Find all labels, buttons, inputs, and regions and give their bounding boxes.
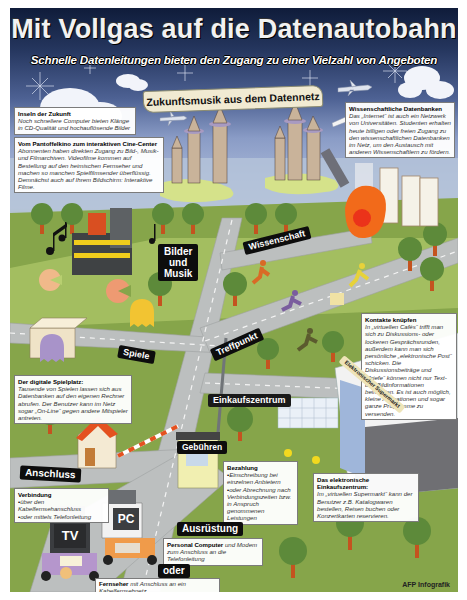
info-box-heading: Personal Computer bbox=[167, 541, 223, 548]
sign-line: und bbox=[164, 257, 192, 268]
info-box-spielplatz: Der digitale Spielplatz: Tausende von Sp… bbox=[14, 375, 132, 424]
info-box-text: In „virtuellen Cafés“ trifft man sich zu… bbox=[365, 323, 452, 416]
info-box-personal-computer: Personal Computer und Modem zum Anschlus… bbox=[163, 538, 263, 566]
sign-ausruestung: Ausrüstung bbox=[177, 522, 243, 536]
info-box-verbindung: Verbindung über den Kabelfernsehanschlus… bbox=[14, 488, 109, 523]
sign-oder: oder bbox=[158, 564, 190, 578]
pc-screen-label: PC bbox=[113, 508, 139, 530]
info-box-heading: Vom Pantoffelkino zum interaktiven Cine-… bbox=[18, 140, 160, 147]
info-box-heading: Das elektronische Einkaufszentrum: bbox=[317, 476, 415, 490]
info-box-kontakte: Kontakte knüpfen In „virtuellen Cafés“ t… bbox=[361, 313, 457, 420]
sign-bilder-und-musik: Bilder und Musik bbox=[158, 244, 198, 281]
info-box-heading: Verbindung bbox=[18, 491, 105, 498]
info-box-heading: Wissenschaftliche Datenbanken bbox=[349, 105, 451, 112]
info-box-fernseher: Fernseher mit Anschluss an ein Kabelfern… bbox=[95, 578, 220, 592]
sign-line: Musik bbox=[164, 268, 192, 279]
info-box-bezahlung: Bezahlung Einschreibung bei einzelnen An… bbox=[223, 461, 298, 525]
info-box-einkaufszentrum: Das elektronische Einkaufszentrum: Im „v… bbox=[313, 473, 419, 522]
info-box-heading: Fernseher bbox=[99, 580, 128, 587]
verbindung-list: über den Kabelfernsehanschluss oder mitt… bbox=[18, 498, 105, 520]
list-item: oder mittels Telefonleitung bbox=[18, 513, 105, 520]
info-box-text: Abonnenten haben direkten Zugang zu Bild… bbox=[18, 147, 159, 190]
info-box-heading: Der digitale Spielplatz: bbox=[18, 378, 128, 385]
island-right bbox=[265, 102, 338, 194]
info-box-heading: Bezahlung bbox=[227, 464, 294, 471]
info-box-text: Im „virtuellen Supermarkt“ kann der Benu… bbox=[317, 490, 413, 519]
info-box-text: Das „Internet“ ist auch ein Netzwerk von… bbox=[349, 112, 451, 155]
page-title: Mit Vollgas auf die Datenautobahn bbox=[10, 14, 458, 45]
info-box-cine-center: Vom Pantoffelkino zum interaktiven Cine-… bbox=[14, 137, 164, 193]
infographic-poster: Mit Vollgas auf die Datenautobahn Schnel… bbox=[10, 8, 458, 592]
tv-screen-label: TV bbox=[54, 524, 86, 548]
sign-gebuehren: Gebühren bbox=[177, 441, 227, 454]
page-subtitle: Schnelle Datenleitungen bieten den Zugan… bbox=[10, 53, 458, 66]
list-item: oder Abrechnung nach Verbindungszeiten b… bbox=[227, 486, 294, 522]
sign-einkaufszentrum: Einkaufszentrum bbox=[208, 394, 291, 407]
info-box-text: Tausende von Spielen lassen sich aus Dat… bbox=[18, 385, 128, 421]
info-box-heading: Inseln der Zukunft bbox=[18, 110, 132, 117]
list-item: Einschreibung bei einzelnen Anbietern bbox=[227, 471, 294, 485]
info-box-heading: Kontakte knüpfen bbox=[365, 316, 453, 323]
info-box-inseln: Inseln der Zukunft Noch schnellere Compu… bbox=[14, 107, 136, 135]
info-box-text: Noch schnellere Computer bieten Klänge i… bbox=[18, 117, 130, 131]
bezahlung-list: Einschreibung bei einzelnen Anbietern od… bbox=[227, 471, 294, 521]
sign-line: Bilder bbox=[164, 246, 192, 257]
list-item: über den Kabelfernsehanschluss bbox=[18, 498, 105, 512]
credit-label: AFP Infografik bbox=[402, 581, 450, 588]
info-box-wissenschaft: Wissenschaftliche Datenbanken Das „Inter… bbox=[345, 102, 455, 158]
